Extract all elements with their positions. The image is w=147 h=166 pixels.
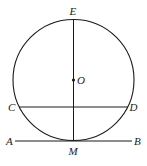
label-m: M (68, 145, 79, 157)
center-point-o (72, 78, 75, 81)
label-e: E (69, 5, 77, 17)
label-o: O (77, 74, 85, 86)
label-b: B (134, 135, 141, 147)
label-a: A (5, 135, 13, 147)
label-c: C (8, 101, 16, 113)
label-d: D (129, 101, 138, 113)
geometry-diagram: E O C D A B M (0, 0, 147, 166)
